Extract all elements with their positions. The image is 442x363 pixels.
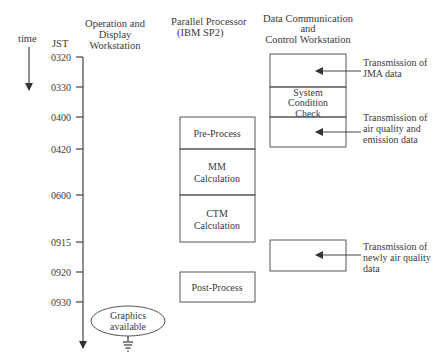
transmissions: Transmission ofJMA dataTransmission ofai… xyxy=(316,57,431,274)
timeline-ticks: 03200330040004200600091509200930 xyxy=(51,52,83,308)
operation-header-line: Display xyxy=(99,29,132,40)
datacomm-header-line: and xyxy=(300,23,316,34)
operation-header-line: Operation and xyxy=(85,18,146,29)
datacomm-label: System xyxy=(293,87,323,98)
transmission-label: air quality and xyxy=(363,123,421,134)
datacomm-label: Condition xyxy=(288,97,328,108)
jst-label: JST xyxy=(52,38,69,49)
time-label: time xyxy=(18,33,37,44)
tick-label: 0930 xyxy=(51,297,71,308)
graphics-label-line: available xyxy=(110,321,147,332)
transmission: Transmission ofnewly air qualitydata xyxy=(316,241,431,274)
parallel-header-line: Parallel Processor xyxy=(171,16,247,27)
tick-label: 0600 xyxy=(51,190,71,201)
tick-label: 0320 xyxy=(51,52,71,63)
transmission-label: Transmission of xyxy=(363,241,428,252)
process-label: Calculation xyxy=(194,173,240,184)
transmission: Transmission ofJMA data xyxy=(316,57,428,79)
tick-label: 0420 xyxy=(51,144,71,155)
parallel-processor-column: Pre-ProcessMMCalculationCTMCalculationPo… xyxy=(180,117,255,302)
tick-label: 0400 xyxy=(51,112,71,123)
graphics-label-line: Graphics xyxy=(110,310,146,321)
transmission-label: newly air quality xyxy=(363,252,431,263)
time-label-group: time xyxy=(18,33,37,90)
transmission-label: emission data xyxy=(363,134,418,145)
transmission-label: Transmission of xyxy=(363,112,428,123)
process-label: Post-Process xyxy=(191,282,242,293)
tick-label: 0330 xyxy=(51,82,71,93)
workflow-diagram: time JST Operation and Display Workstati… xyxy=(0,0,442,363)
datacomm-header: Data Communication and Control Workstati… xyxy=(263,13,354,45)
process-label: Pre-Process xyxy=(193,128,240,139)
process-box: Pre-Process xyxy=(180,117,255,149)
transmission-label: data xyxy=(363,263,380,274)
parallel-header-line: (IBM SP2) xyxy=(177,27,224,39)
tick-label: 0915 xyxy=(51,237,71,248)
datacomm-header-line: Control Workstation xyxy=(265,34,351,45)
datacomm-block: SystemConditionCheck xyxy=(270,87,346,119)
process-label: Calculation xyxy=(194,220,240,231)
operation-header-line: Workstation xyxy=(89,40,141,51)
process-box: CTMCalculation xyxy=(180,195,255,242)
transmission-label: JMA data xyxy=(363,68,402,79)
tick-label: 0920 xyxy=(51,267,71,278)
transmission-label: Transmission of xyxy=(363,57,428,68)
ground-symbol-icon xyxy=(123,336,133,351)
process-box-rect xyxy=(180,149,255,195)
operation-header: Operation and Display Workstation xyxy=(85,18,146,51)
process-box: Post-Process xyxy=(180,272,255,302)
process-box: MMCalculation xyxy=(180,149,255,195)
parallel-header: Parallel Processor (IBM SP2) xyxy=(171,16,247,39)
process-box-rect xyxy=(180,195,255,242)
process-label: CTM xyxy=(206,208,228,219)
datacomm-column: SystemConditionCheck xyxy=(270,54,346,271)
graphics-output: Graphics available xyxy=(91,306,165,351)
process-label: MM xyxy=(208,161,226,172)
